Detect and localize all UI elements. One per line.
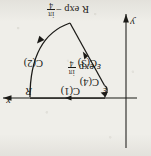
inner-vertex-base: ε exp — [76, 62, 101, 73]
outer-vertex-label: R exp −iπ4 — [47, 2, 89, 18]
inner-vertex-fraction-denominator: 4 — [68, 60, 76, 69]
outer-vertex-fraction: iπ4 — [47, 2, 55, 18]
contour-c2-label: C(2) — [24, 58, 43, 69]
epsilon-point-label: ε — [103, 86, 107, 97]
outer-vertex-fraction-denominator: 4 — [47, 2, 55, 11]
diagram-canvas — [0, 0, 151, 156]
contour-diagram: x y ε R C(1) C(2) C(3) C(4) R exp −iπ4 ε… — [0, 0, 151, 156]
inner-vertex-fraction-numerator: iπ — [68, 68, 76, 76]
outer-vertex-minus-sign: − — [56, 4, 62, 15]
inner-vertex-label: ε exp iπ4 — [67, 60, 101, 76]
radius-R-point-label: R — [26, 86, 32, 97]
x-axis-label: x — [6, 96, 11, 107]
outer-vertex-fraction-numerator: iπ — [47, 10, 55, 18]
contour-c1-label: C(1) — [61, 86, 80, 97]
outer-vertex-base: R exp — [62, 4, 89, 15]
y-axis-label: y — [130, 17, 135, 28]
contour-c4-label: C(4) — [80, 77, 99, 88]
y-axis-arrowhead — [123, 14, 129, 23]
inner-vertex-fraction: iπ4 — [68, 60, 76, 76]
